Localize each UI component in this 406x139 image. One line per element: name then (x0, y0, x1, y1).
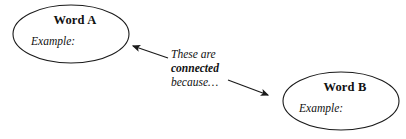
arrow-to-word-b (228, 80, 268, 95)
connector-caption-line-2: connected (171, 61, 219, 75)
connector-caption: These are connected because… (171, 47, 219, 89)
node-example-label-word-a: Example: (31, 36, 75, 48)
node-title-word-a: Word A (30, 14, 120, 27)
arrow-to-word-a (133, 46, 168, 58)
connector-caption-line-1: These are (171, 47, 219, 61)
connector-caption-line-3: because… (171, 75, 219, 89)
node-title-word-b: Word B (300, 81, 390, 94)
diagram-canvas: Word A Example: Word B Example: These ar… (0, 0, 406, 139)
node-example-label-word-b: Example: (299, 103, 343, 115)
